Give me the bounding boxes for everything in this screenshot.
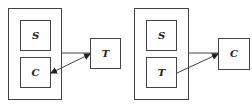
right-s-label: S	[158, 30, 165, 41]
right-container-box	[135, 9, 189, 100]
right-diagram: S T C	[135, 9, 250, 100]
right-c-label: C	[230, 48, 238, 59]
left-s-label: S	[32, 30, 39, 41]
right-arrow	[177, 54, 218, 73]
left-t-label: T	[102, 48, 111, 59]
left-diagram: S C T	[9, 9, 121, 100]
left-double-arrow	[51, 54, 90, 73]
left-container-box	[9, 9, 62, 100]
right-t-label: T	[158, 67, 167, 78]
left-c-label: C	[32, 67, 40, 78]
diagram-canvas: S C T S T C	[0, 0, 252, 104]
